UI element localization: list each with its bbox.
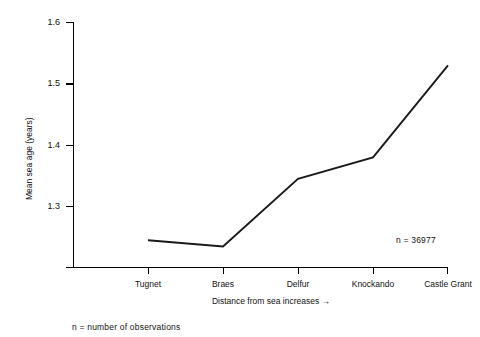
x-tick-label-tugnet: Tugnet bbox=[108, 280, 188, 289]
y-tick-label-1-4: 1.4 bbox=[32, 141, 60, 150]
annotation-sample-size: n = 36977 bbox=[396, 236, 436, 245]
x-tick-label-braes: Braes bbox=[183, 280, 263, 289]
y-tick-label-1-6: 1.6 bbox=[32, 18, 60, 27]
y-axis-title: Mean sea age (years) bbox=[25, 117, 34, 200]
x-tick-label-delfur: Delfur bbox=[258, 280, 338, 289]
chart-figure: 1.6 1.5 1.4 1.3 Mean sea age (years) Tug… bbox=[0, 0, 480, 337]
y-tick-label-1-5: 1.5 bbox=[32, 79, 60, 88]
x-tick-label-knockando: Knockando bbox=[333, 280, 413, 289]
y-axis-ticks bbox=[66, 23, 73, 268]
x-axis-title: Distance from sea increases → bbox=[181, 297, 361, 306]
y-tick-label-1-3: 1.3 bbox=[32, 202, 60, 211]
data-line-mean-sea-age bbox=[148, 65, 448, 246]
figure-footnote: n = number of observations bbox=[72, 323, 180, 332]
x-tick-label-castle-grant: Castle Grant bbox=[408, 280, 480, 289]
